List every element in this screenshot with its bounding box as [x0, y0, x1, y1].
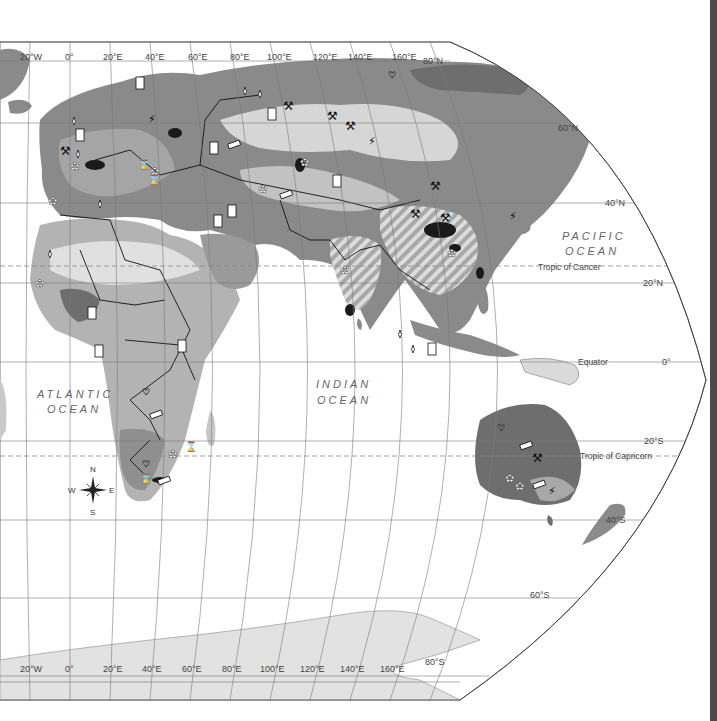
world-resource-map: 20°W 0° 20°E 40°E 60°E 80°E 100°E 120°E …	[0, 0, 717, 721]
svg-text:N: N	[90, 465, 96, 474]
svg-text:140°E: 140°E	[348, 52, 373, 62]
svg-text:Tropic of Cancer: Tropic of Cancer	[538, 262, 601, 272]
svg-text:✿: ✿	[48, 195, 57, 208]
svg-text:40°S: 40°S	[606, 515, 626, 525]
svg-text:✿: ✿	[340, 264, 349, 277]
svg-text:⚡: ⚡	[548, 485, 556, 498]
svg-text:⚒: ⚒	[440, 211, 451, 225]
svg-text:ATLANTIC: ATLANTIC	[36, 388, 113, 400]
svg-text:140°E: 140°E	[340, 664, 365, 674]
svg-text:80°E: 80°E	[222, 664, 242, 674]
right-gutter	[710, 0, 717, 721]
svg-text:⚡: ⚡	[148, 113, 156, 126]
svg-text:⌛: ⌛	[138, 158, 150, 171]
svg-text:0°: 0°	[662, 357, 671, 367]
svg-text:⚒: ⚒	[60, 144, 71, 158]
svg-text:⚒: ⚒	[430, 179, 441, 193]
svg-text:✿: ✿	[505, 472, 514, 485]
svg-text:⌛: ⌛	[148, 173, 160, 186]
svg-text:♡: ♡	[497, 423, 505, 433]
svg-text:60°S: 60°S	[530, 590, 550, 600]
svg-text:✿: ✿	[168, 448, 177, 461]
svg-text:✿: ✿	[447, 247, 456, 260]
svg-text:✿: ✿	[35, 277, 44, 290]
svg-text:60°E: 60°E	[188, 52, 208, 62]
svg-text:40°E: 40°E	[142, 664, 162, 674]
svg-text:✿: ✿	[258, 183, 267, 196]
svg-text:⌛: ⌛	[185, 440, 197, 453]
svg-text:OCEAN: OCEAN	[565, 245, 619, 257]
svg-text:⌛: ⌛	[140, 472, 152, 485]
svg-text:Tropic of Capricorn: Tropic of Capricorn	[580, 451, 652, 461]
svg-text:20°W: 20°W	[20, 664, 43, 674]
svg-text:W: W	[68, 486, 76, 495]
svg-text:60°N: 60°N	[558, 123, 578, 133]
svg-text:160°E: 160°E	[380, 664, 405, 674]
svg-text:120°E: 120°E	[313, 52, 338, 62]
svg-text:20°W: 20°W	[20, 52, 43, 62]
svg-text:✿: ✿	[515, 480, 524, 493]
svg-text:S: S	[90, 508, 95, 517]
svg-text:60°E: 60°E	[182, 664, 202, 674]
svg-text:OCEAN: OCEAN	[47, 403, 101, 415]
svg-text:20°S: 20°S	[644, 436, 664, 446]
svg-text:160°E: 160°E	[392, 52, 417, 62]
svg-text:0°: 0°	[65, 664, 74, 674]
svg-text:⚒: ⚒	[532, 451, 543, 465]
svg-text:⚡: ⚡	[368, 135, 376, 148]
svg-text:♡: ♡	[142, 459, 150, 469]
svg-text:⚡: ⚡	[509, 210, 517, 223]
svg-text:⚒: ⚒	[345, 119, 356, 133]
svg-text:100°E: 100°E	[267, 52, 292, 62]
svg-text:E: E	[109, 486, 114, 495]
svg-text:♡: ♡	[142, 387, 150, 397]
svg-text:INDIAN: INDIAN	[316, 378, 371, 390]
svg-text:80°S: 80°S	[425, 657, 445, 667]
svg-text:80°E: 80°E	[230, 52, 250, 62]
svg-text:0°: 0°	[65, 52, 74, 62]
svg-text:40°N: 40°N	[605, 198, 625, 208]
svg-text:⚒: ⚒	[327, 109, 338, 123]
svg-text:80°N: 80°N	[423, 56, 443, 66]
svg-text:⚒: ⚒	[283, 99, 294, 113]
svg-text:♡: ♡	[388, 70, 396, 80]
svg-text:20°N: 20°N	[643, 278, 663, 288]
svg-text:20°E: 20°E	[103, 664, 123, 674]
svg-text:Equator: Equator	[578, 357, 608, 367]
svg-text:✿: ✿	[300, 156, 309, 169]
svg-text:✿: ✿	[70, 160, 79, 173]
svg-text:100°E: 100°E	[260, 664, 285, 674]
svg-text:⚒: ⚒	[410, 207, 421, 221]
svg-text:OCEAN: OCEAN	[317, 394, 371, 406]
svg-text:40°E: 40°E	[145, 52, 165, 62]
svg-text:120°E: 120°E	[300, 664, 325, 674]
svg-text:PACIFIC: PACIFIC	[562, 230, 626, 242]
svg-text:20°E: 20°E	[103, 52, 123, 62]
